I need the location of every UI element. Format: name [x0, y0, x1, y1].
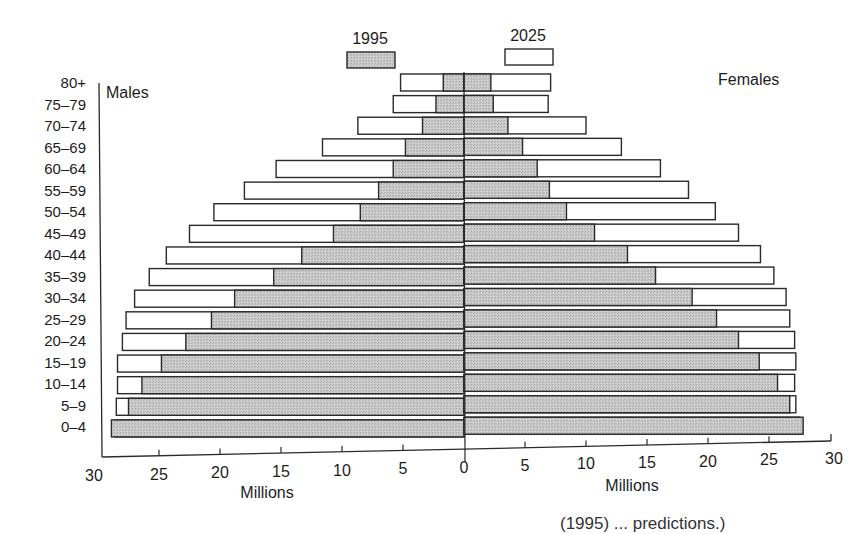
bar-males-1995 — [333, 225, 464, 242]
x-tick-label: 5 — [521, 457, 530, 474]
bar-females-1995 — [464, 138, 523, 155]
x-axis-title-left: Millions — [240, 484, 293, 501]
age-group-label: 50–54 — [44, 203, 86, 220]
x-tick-label: 10 — [333, 462, 351, 479]
legend: 19952025 — [347, 27, 553, 68]
bar-females-1995 — [464, 289, 692, 306]
age-group-label: 15–19 — [44, 354, 86, 371]
bar-males-1995 — [360, 204, 464, 221]
age-group-label: 20–24 — [44, 332, 86, 349]
age-group-label: 30–34 — [44, 289, 86, 306]
age-group-label: 60–64 — [44, 160, 86, 177]
bar-males-1995 — [186, 333, 464, 350]
bar-males-1995 — [129, 398, 465, 415]
age-group-label: 75–79 — [44, 96, 86, 113]
x-axis-title-right: Millions — [605, 477, 658, 494]
males-label: Males — [106, 84, 149, 101]
bar-males-1995 — [443, 74, 464, 91]
age-group-label: 10–14 — [44, 375, 86, 392]
bars-group — [111, 74, 803, 437]
x-tick-label: 25 — [150, 466, 168, 483]
bar-males-1995 — [302, 247, 464, 264]
x-tick-label: 15 — [272, 463, 290, 480]
legend-swatch-1995 — [347, 52, 395, 68]
bar-females-1995 — [464, 310, 717, 327]
bar-males-1995 — [161, 355, 464, 372]
bar-females-1995 — [464, 396, 790, 413]
bar-females-1995 — [464, 224, 595, 241]
bar-males-1995 — [274, 269, 464, 286]
bar-males-1995 — [211, 312, 464, 329]
bar-females-1995 — [464, 417, 803, 434]
bar-females-1995 — [464, 374, 778, 391]
bar-males-1995 — [405, 139, 464, 156]
bar-males-1995 — [142, 377, 464, 394]
bar-females-1995 — [464, 95, 493, 112]
x-tick-label: 25 — [760, 451, 778, 468]
bar-females-1995 — [464, 353, 759, 370]
age-group-label: 55–59 — [44, 182, 86, 199]
bar-females-1995 — [464, 331, 739, 348]
bar-males-1995 — [393, 160, 464, 177]
x-tick-label: 0 — [460, 459, 469, 476]
x-tick-label: 5 — [399, 460, 408, 477]
legend-label-2025: 2025 — [510, 27, 546, 44]
legend-swatch-2025 — [505, 49, 553, 65]
legend-label-1995: 1995 — [352, 30, 388, 47]
age-group-label: 40–44 — [44, 246, 86, 263]
x-axis-line — [102, 441, 831, 457]
bar-females-1995 — [464, 160, 537, 177]
bar-females-1995 — [464, 74, 491, 91]
x-tick-label: 15 — [638, 454, 656, 471]
bar-males-1995 — [436, 96, 464, 113]
bar-males-1995 — [423, 117, 464, 134]
bar-females-1995 — [464, 246, 627, 263]
age-group-label: 70–74 — [44, 117, 86, 134]
age-group-label: 35–39 — [44, 268, 86, 285]
x-tick-label: 30 — [85, 467, 103, 484]
x-tick-label: 30 — [825, 450, 843, 467]
bar-females-1995 — [464, 267, 656, 284]
age-group-label: 65–69 — [44, 139, 86, 156]
bar-males-1995 — [111, 420, 464, 437]
age-group-label: 45–49 — [44, 225, 86, 242]
age-group-label: 5–9 — [61, 397, 86, 414]
bar-females-1995 — [464, 117, 508, 134]
x-tick-label: 20 — [699, 453, 717, 470]
females-label: Females — [718, 71, 779, 88]
figure-caption-fragment: (1995) ... predictions.) — [560, 514, 725, 534]
bar-females-1995 — [464, 203, 566, 220]
bar-females-1995 — [464, 181, 549, 198]
bar-males-1995 — [235, 290, 464, 307]
x-tick-label: 10 — [577, 455, 595, 472]
age-group-label: 0–4 — [61, 418, 86, 435]
x-tick-label: 20 — [211, 464, 229, 481]
age-group-label: 80+ — [61, 74, 87, 91]
age-group-label: 25–29 — [44, 311, 86, 328]
bar-males-1995 — [379, 182, 464, 199]
y-axis-line — [99, 83, 102, 457]
